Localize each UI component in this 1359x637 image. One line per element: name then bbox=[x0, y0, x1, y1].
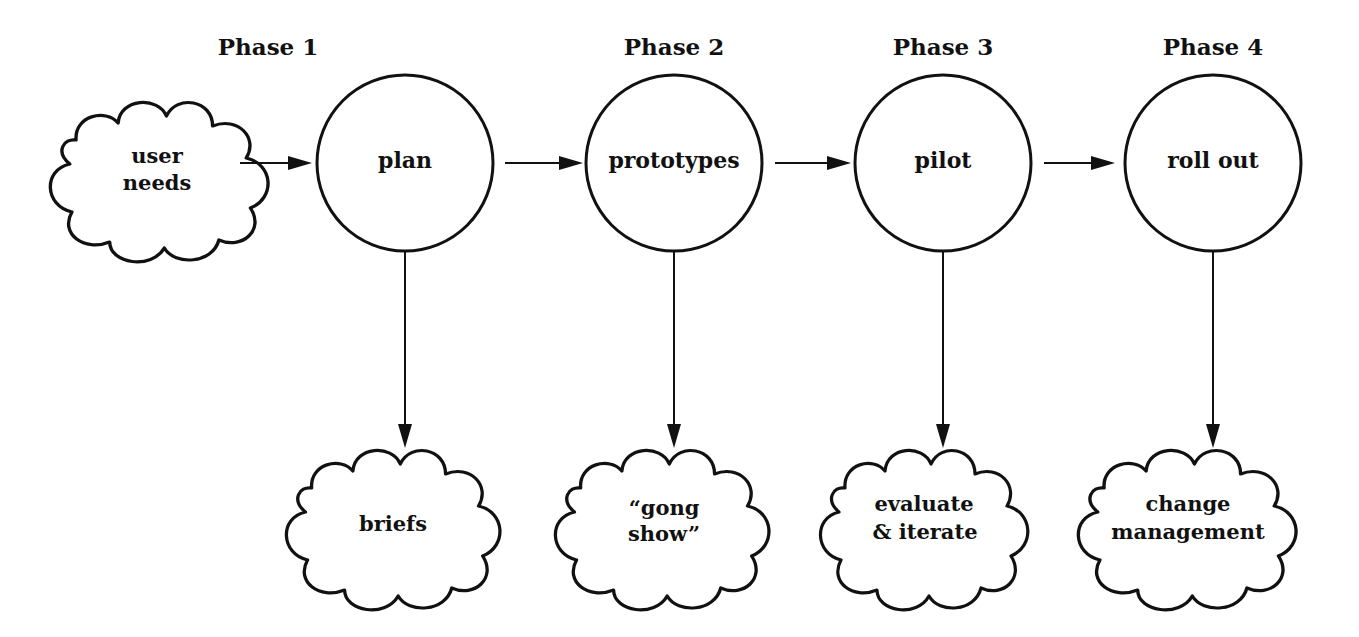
briefs-label: briefs bbox=[359, 511, 427, 536]
plan-label: plan bbox=[378, 147, 432, 173]
pilot-node: pilot bbox=[855, 75, 1031, 251]
arrow-pilot-to-roll-out bbox=[1044, 156, 1115, 170]
arrowhead-icon bbox=[667, 424, 681, 448]
arrow-plan-to-briefs bbox=[398, 251, 412, 448]
arrowhead-icon bbox=[398, 424, 412, 448]
change-management-label-line-2: management bbox=[1111, 519, 1265, 544]
prototypes-label: prototypes bbox=[608, 147, 739, 173]
arrow-prototypes-to-pilot bbox=[775, 156, 851, 170]
evaluate-iterate-label-line-1: evaluate bbox=[874, 491, 973, 516]
arrowhead-icon bbox=[1091, 156, 1115, 170]
process-diagram: Phase 1 Phase 2 Phase 3 Phase 4 user nee… bbox=[0, 0, 1359, 637]
arrowhead-icon bbox=[827, 156, 851, 170]
phase-4-title: Phase 4 bbox=[1163, 33, 1264, 60]
plan-node: plan bbox=[317, 75, 493, 251]
phase-3-title: Phase 3 bbox=[893, 33, 994, 60]
arrow-plan-to-prototypes bbox=[505, 156, 583, 170]
gong-show-label-line-2: show” bbox=[628, 521, 700, 546]
arrow-prototypes-to-gong-show bbox=[667, 251, 681, 448]
arrowhead-icon bbox=[1206, 424, 1220, 448]
user-needs-label-line-2: needs bbox=[123, 170, 192, 195]
arrow-pilot-to-evaluate bbox=[936, 251, 950, 448]
arrowhead-icon bbox=[288, 156, 312, 170]
change-management-label-line-1: change bbox=[1146, 491, 1231, 516]
roll-out-node: roll out bbox=[1125, 75, 1301, 251]
roll-out-label: roll out bbox=[1167, 147, 1259, 173]
evaluate-iterate-label-line-2: & iterate bbox=[872, 519, 977, 544]
pilot-label: pilot bbox=[915, 147, 973, 173]
arrowhead-icon bbox=[559, 156, 583, 170]
arrow-roll-out-to-change-management bbox=[1206, 251, 1220, 448]
user-needs-label-line-1: user bbox=[131, 143, 183, 168]
arrowhead-icon bbox=[936, 424, 950, 448]
gong-show-label-line-1: “gong bbox=[629, 495, 700, 520]
phase-1-title: Phase 1 bbox=[218, 33, 319, 60]
phase-2-title: Phase 2 bbox=[624, 33, 725, 60]
prototypes-node: prototypes bbox=[586, 75, 762, 251]
